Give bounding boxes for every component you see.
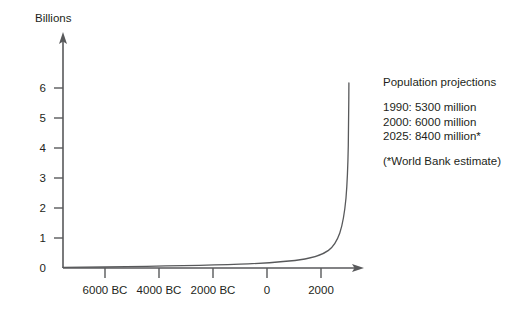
projections-heading: Population projections [383, 76, 518, 89]
y-tick-label-5: 5 [28, 112, 46, 125]
population-growth-chart: Billions 6 5 4 3 2 1 0 6000 BC 4000 BC 2… [0, 0, 521, 318]
x-axis-ticks [105, 268, 321, 278]
y-tick-label-4: 4 [28, 142, 46, 155]
projections-annotation: Population projections 1990: 5300 millio… [383, 76, 518, 168]
y-axis-title: Billions [35, 12, 71, 25]
x-tick-label-2000bc: 2000 BC [191, 284, 236, 297]
y-axis-ticks [54, 88, 63, 238]
y-tick-label-2: 2 [28, 202, 46, 215]
x-tick-label-0: 0 [264, 284, 270, 297]
x-tick-label-2000: 2000 [308, 284, 334, 297]
x-tick-label-6000bc: 6000 BC [83, 284, 128, 297]
y-tick-label-3: 3 [28, 172, 46, 185]
population-curve [63, 83, 349, 267]
projections-list: 1990: 5300 million 2000: 6000 million 20… [383, 100, 518, 144]
projection-line-2025: 2025: 8400 million* [383, 129, 518, 144]
projection-line-1990: 1990: 5300 million [383, 100, 518, 115]
y-tick-label-1: 1 [28, 232, 46, 245]
y-tick-label-0: 0 [28, 262, 46, 275]
projections-footnote: (*World Bank estimate) [383, 155, 518, 168]
projection-line-2000: 2000: 6000 million [383, 115, 518, 130]
y-tick-label-6: 6 [28, 82, 46, 95]
x-tick-label-4000bc: 4000 BC [137, 284, 182, 297]
